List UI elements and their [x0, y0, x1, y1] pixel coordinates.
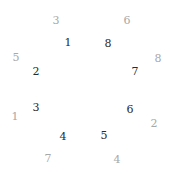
outer-number: 4	[114, 154, 121, 165]
inner-number: 6	[127, 104, 134, 115]
inner-number: 5	[101, 130, 108, 141]
inner-number: 7	[132, 66, 139, 77]
outer-number: 2	[151, 118, 158, 129]
outer-number: 5	[13, 52, 20, 63]
outer-number: 1	[12, 111, 19, 122]
inner-number: 8	[105, 38, 112, 49]
inner-number: 1	[65, 37, 72, 48]
number-ring-canvas: 3 6 5 8 1 2 7 4 1 8 2 7 3 6 4 5	[0, 0, 170, 174]
outer-number: 6	[124, 15, 131, 26]
outer-number: 3	[53, 15, 60, 26]
inner-number: 3	[33, 102, 40, 113]
inner-number: 2	[33, 66, 40, 77]
outer-number: 7	[45, 153, 52, 164]
outer-number: 8	[155, 53, 162, 64]
inner-number: 4	[60, 131, 67, 142]
